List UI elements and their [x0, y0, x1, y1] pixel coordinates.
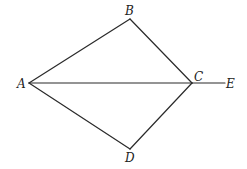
segments-group — [29, 19, 225, 149]
label-c: C — [194, 70, 203, 84]
segment-ab — [29, 19, 130, 83]
segment-bc — [130, 19, 192, 83]
label-b: B — [124, 4, 134, 18]
labels-group: A B C D E — [16, 4, 235, 165]
label-d: D — [124, 151, 135, 165]
label-e: E — [225, 77, 235, 91]
segment-da — [29, 83, 130, 149]
segment-cd — [130, 83, 192, 149]
label-a: A — [16, 77, 26, 91]
geometry-diagram: A B C D E — [0, 0, 247, 169]
